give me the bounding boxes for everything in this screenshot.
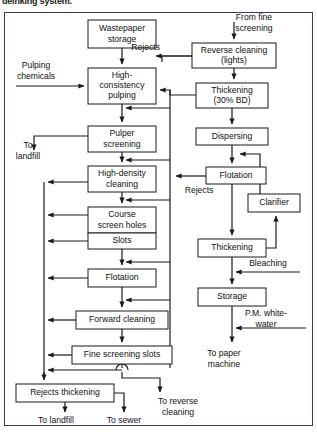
label-to-paper-machine-l2: machine (208, 359, 241, 369)
box-label-hcp-l1: High- (112, 70, 133, 80)
box-course-screen-holes[interactable]: Course screen holes (88, 207, 156, 233)
label-bleaching: Bleaching (249, 258, 287, 268)
box-label-hcp-l2: consistency (100, 80, 146, 90)
box-thickening-30bd[interactable]: Thickening (30% BD) (196, 83, 268, 108)
label-pm-whitewater-l1: P.M. white- (245, 308, 287, 318)
label-rejects-flotation: Rejects (185, 185, 214, 195)
box-label-flotation-left: Flotation (106, 272, 139, 282)
diagram-page: deinking system. (0, 0, 317, 432)
box-high-consistency-pulping[interactable]: High- consistency pulping (88, 68, 156, 104)
box-label-reverse-cleaning-l2: (lights) (221, 55, 247, 65)
box-label-forward-cleaning: Forward cleaning (89, 314, 155, 324)
box-clarifier[interactable]: Clarifier (248, 194, 300, 212)
box-label-hdc-l2: cleaning (106, 179, 138, 189)
box-label-hcp-l3: pulping (108, 90, 136, 100)
label-rejects-top: Rejects (131, 42, 160, 52)
label-to-landfill-bottom: To landfill (38, 415, 74, 425)
label-to-reverse-cleaning-l2: cleaning (162, 407, 194, 417)
box-label-slots: Slots (112, 235, 131, 245)
box-flotation-left[interactable]: Flotation (88, 269, 156, 287)
box-label-thickening2: Thickening (211, 242, 253, 252)
box-label-flotation-right: Flotation (220, 170, 253, 180)
label-pm-whitewater-l2: water (254, 319, 276, 329)
box-label-clarifier: Clarifier (259, 197, 289, 207)
box-label-fine-screening-slots: Fine screening slots (84, 349, 160, 359)
box-fine-screening-slots[interactable]: Fine screening slots (72, 346, 172, 364)
box-label-pulper-screening-l1: Pulper (110, 128, 135, 138)
label-to-sewer: To sewer (107, 415, 142, 425)
box-thickening-2[interactable]: Thickening (198, 239, 266, 257)
box-storage[interactable]: Storage (198, 288, 266, 306)
label-from-fine-screening-l1: From fine (236, 12, 273, 22)
box-label-storage: Storage (217, 291, 247, 301)
box-label-hdc-l1: High-density (98, 168, 146, 178)
label-to-reverse-cleaning-l1: To reverse (158, 396, 198, 406)
box-high-density-cleaning[interactable]: High-density cleaning (88, 166, 156, 192)
box-pulper-screening[interactable]: Pulper screening (88, 126, 156, 152)
box-label-reverse-cleaning-l1: Reverse cleaning (201, 45, 268, 55)
box-reverse-cleaning[interactable]: Reverse cleaning (lights) (192, 43, 276, 68)
label-from-fine-screening-l2: screening (235, 23, 272, 33)
box-label-pulper-screening-l2: screening (103, 139, 140, 149)
box-label-csh-l1: Course (108, 209, 136, 219)
box-flotation-right[interactable]: Flotation (206, 167, 266, 184)
box-slots[interactable]: Slots (88, 233, 156, 249)
box-label-rejects-thickening: Rejects thickening (30, 387, 100, 397)
label-pulping-chemicals-l1: Pulping (22, 60, 51, 70)
label-to-landfill-left-l2: landfill (16, 151, 40, 161)
deinking-system-flowchart: Wastepaper storage Reverse cleaning (lig… (0, 0, 317, 432)
box-label-csh-l2: screen holes (98, 220, 147, 230)
box-label-dispersing: Dispersing (212, 131, 253, 141)
box-forward-cleaning[interactable]: Forward cleaning (76, 311, 168, 329)
box-rejects-thickening[interactable]: Rejects thickening (16, 384, 114, 402)
box-label-wastepaper-storage-l1: Wastepaper (99, 23, 145, 33)
box-dispersing[interactable]: Dispersing (196, 128, 268, 145)
label-to-landfill-left-l1: To (23, 140, 32, 150)
label-to-paper-machine-l1: To paper (207, 348, 241, 358)
box-label-thickening30-l2: (30% BD) (213, 95, 250, 105)
box-label-thickening30-l1: Thickening (211, 85, 253, 95)
label-pulping-chemicals-l2: chemicals (17, 71, 55, 81)
